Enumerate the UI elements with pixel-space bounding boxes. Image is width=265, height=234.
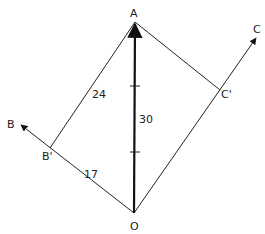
label-a: A [130, 7, 138, 20]
segment-a-cprime [135, 22, 220, 90]
length-o-bprime: 17 [84, 168, 98, 181]
label-c: C [253, 23, 261, 36]
vector-oa-arrow [134, 24, 135, 213]
length-a-bprime: 24 [92, 88, 106, 101]
segment-a-bprime [50, 22, 135, 148]
label-b-prime: B' [42, 150, 53, 163]
label-o: O [130, 220, 139, 233]
label-c-prime: C' [221, 88, 232, 101]
axis-ob-arrow [21, 125, 134, 213]
length-oa: 30 [139, 113, 153, 126]
vector-diagram: A B B' C C' O 24 30 17 [0, 0, 265, 234]
label-b: B [7, 118, 15, 131]
